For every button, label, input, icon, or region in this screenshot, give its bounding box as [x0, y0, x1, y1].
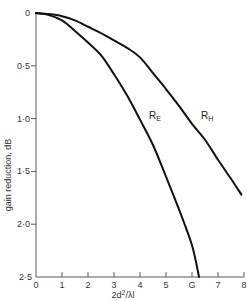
curves — [36, 13, 241, 277]
y-tick-label: 0·5 — [17, 61, 30, 71]
x-tick-label: 3 — [111, 280, 116, 290]
x-ticks: 012345G78 — [33, 272, 246, 290]
curve-r-e — [36, 13, 199, 277]
y-ticks: 00·51·01·52·02·5 — [17, 8, 36, 282]
x-tick-label: 5 — [163, 280, 168, 290]
y-tick-label: 2·0 — [17, 219, 30, 229]
y-tick-label: 0 — [25, 8, 30, 18]
curve-label-r-h: RH — [201, 110, 213, 122]
x-tick-label: 7 — [215, 280, 220, 290]
y-tick-label: 2·5 — [19, 272, 32, 282]
x-tick-label: 8 — [241, 280, 246, 290]
curve-r-h — [36, 13, 241, 195]
x-tick-label: 1 — [59, 280, 64, 290]
gain-reduction-chart: 00·51·01·52·02·5 012345G78 RERH 2d2/λl g… — [0, 0, 247, 301]
x-tick-label: G — [188, 280, 195, 290]
x-tick-label: 2 — [85, 280, 90, 290]
curve-labels: RERH — [149, 110, 213, 122]
y-tick-label: 1·0 — [17, 114, 30, 124]
x-tick-label: 4 — [137, 280, 142, 290]
y-axis-title: gain reduction, dB — [3, 139, 13, 212]
x-tick-label: 0 — [33, 280, 38, 290]
y-tick-label: 1·5 — [17, 166, 30, 176]
curve-label-r-e: RE — [149, 110, 161, 122]
x-axis-title: 2d2/λl — [112, 289, 135, 300]
